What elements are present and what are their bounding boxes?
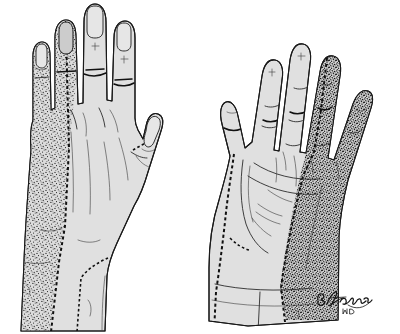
nail-ring-finger-dorsal (59, 22, 73, 54)
crease-index-dip (115, 79, 132, 80)
crease-ring-dip (57, 71, 76, 72)
anatomy-figure: Ulnar nerve sensory distribution of the … (0, 0, 400, 334)
nail-middle-finger-dorsal (87, 6, 103, 38)
anatomy-illustration-canvas (0, 0, 400, 334)
nail-index-finger-dorsal (117, 23, 131, 51)
nail-little-finger-dorsal (36, 44, 47, 68)
crease-middle-dip (86, 69, 104, 70)
